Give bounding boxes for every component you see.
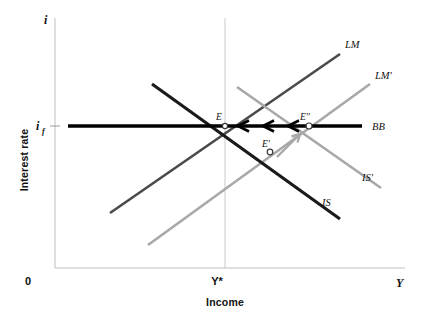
y-tick-label: i xyxy=(36,119,40,133)
point-label-e: E xyxy=(215,112,222,122)
origin-label: 0 xyxy=(25,275,31,287)
curve-is xyxy=(152,84,340,219)
curve-is-prime xyxy=(237,87,381,188)
curve-label-lm-prime: LM' xyxy=(374,70,393,81)
curve-label-is-prime: IS' xyxy=(361,172,374,183)
point-marker-e xyxy=(222,123,227,128)
x-tick-label-y-star: Y* xyxy=(211,275,223,287)
y-tick-subscript: f xyxy=(42,127,46,136)
x-axis-title: Income xyxy=(206,296,244,308)
point-marker-e-prime xyxy=(267,149,273,155)
curve-label-lm: LM xyxy=(344,39,361,50)
adjustment-arrow-shaft xyxy=(277,134,300,157)
plot-canvas: LM LM' IS IS' BB E E' E'' i i f 0 Y* Y I… xyxy=(0,0,423,316)
curve-label-is: IS xyxy=(321,197,331,208)
curve-label-bb: BB xyxy=(372,121,385,132)
isl-mbb-diagram: LM LM' IS IS' BB E E' E'' i i f 0 Y* Y I… xyxy=(0,0,423,316)
point-label-e-double-prime: E'' xyxy=(299,112,311,122)
y-axis-title: Interest rate xyxy=(18,129,30,192)
x-axis-symbol: Y xyxy=(396,276,405,290)
y-axis-symbol: i xyxy=(44,13,48,27)
point-label-e-prime: E' xyxy=(261,139,271,149)
point-marker-e-double-prime xyxy=(306,123,312,129)
